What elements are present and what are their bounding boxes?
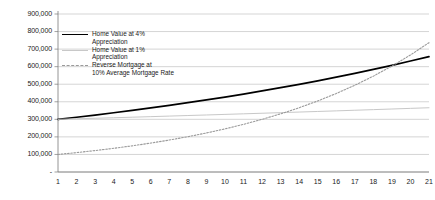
x-axis-tick-label: 19: [385, 178, 399, 185]
line-chart: -100,000200,000300,000400,000500,000600,…: [0, 0, 435, 200]
x-axis-tick-label: 9: [199, 178, 213, 185]
x-axis-tick-label: 20: [403, 178, 417, 185]
x-axis-tick-label: 21: [422, 178, 435, 185]
y-axis-tick-label: 600,000: [0, 62, 52, 69]
y-axis-tick-label: 100,000: [0, 150, 52, 157]
y-axis-tick-label: 400,000: [0, 97, 52, 104]
x-axis-tick-label: 3: [88, 178, 102, 185]
x-axis-tick-label: 14: [292, 178, 306, 185]
y-axis-tick-label: -: [0, 168, 52, 175]
legend-item-label: Reverse Mortgage at 10% Average Mortgage…: [92, 61, 174, 76]
solid-line-swatch-icon: [62, 30, 88, 39]
legend-item: Reverse Mortgage at 10% Average Mortgage…: [62, 61, 212, 76]
x-axis-tick-label: 4: [107, 178, 121, 185]
y-axis-tick-label: 700,000: [0, 45, 52, 52]
x-axis-tick-label: 13: [274, 178, 288, 185]
x-axis-tick-label: 7: [162, 178, 176, 185]
x-axis-tick-label: 10: [218, 178, 232, 185]
y-axis-tick-label: 500,000: [0, 80, 52, 87]
dotted-line-swatch-icon: [62, 61, 88, 70]
x-axis-tick-label: 6: [144, 178, 158, 185]
x-axis-tick-label: 8: [181, 178, 195, 185]
legend-item-label: Home Value at 4% Appreciation: [92, 30, 145, 45]
legend-item-label: Home Value at 1% Appreciation: [92, 46, 145, 61]
x-axis-tick-label: 18: [366, 178, 380, 185]
x-axis-tick-label: 2: [70, 178, 84, 185]
x-axis-tick-label: 16: [329, 178, 343, 185]
x-axis-tick-label: 5: [125, 178, 139, 185]
legend-item: Home Value at 4% Appreciation: [62, 30, 212, 45]
x-axis-tick-label: 12: [255, 178, 269, 185]
chart-legend: Home Value at 4% Appreciation Home Value…: [62, 30, 212, 77]
x-axis-tick-label: 15: [311, 178, 325, 185]
y-axis-tick-label: 900,000: [0, 10, 52, 17]
x-axis-tick-label: 1: [51, 178, 65, 185]
x-axis-tick-label: 11: [237, 178, 251, 185]
light-solid-line-swatch-icon: [62, 46, 88, 55]
x-axis-tick-label: 17: [348, 178, 362, 185]
y-axis-tick-label: 800,000: [0, 27, 52, 34]
y-axis-tick-label: 200,000: [0, 132, 52, 139]
legend-item: Home Value at 1% Appreciation: [62, 46, 212, 61]
y-axis-tick-label: 300,000: [0, 115, 52, 122]
